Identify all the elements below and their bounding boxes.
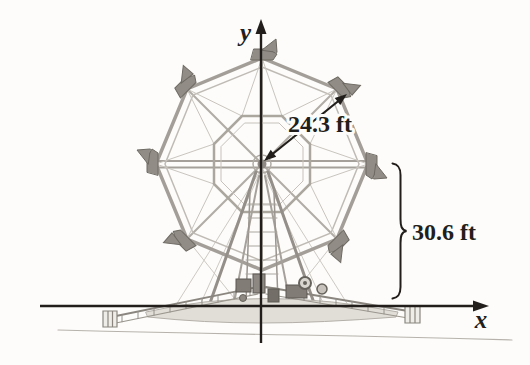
y-axis-arrowhead-icon bbox=[256, 19, 267, 34]
ferris-wheel-figure: y x 24.3 ft 30.6 ft bbox=[0, 0, 530, 365]
car-top bbox=[251, 39, 277, 60]
ferris-wheel-sketch bbox=[58, 39, 512, 340]
car-upper-left bbox=[166, 65, 199, 98]
x-axis-label: x bbox=[474, 306, 488, 333]
height-brace bbox=[393, 164, 407, 299]
car-right bbox=[366, 153, 387, 179]
car-lower-left bbox=[163, 227, 196, 260]
right-fence-box bbox=[405, 306, 420, 323]
height-dimension-label: 30.6 ft bbox=[412, 219, 476, 245]
radius-dimension-label: 24.3 ft bbox=[288, 111, 352, 137]
figure-canvas: y x 24.3 ft 30.6 ft bbox=[0, 0, 530, 365]
car-left bbox=[137, 149, 158, 175]
y-axis-label: y bbox=[237, 19, 252, 46]
left-fence-box bbox=[103, 311, 117, 327]
ground-line bbox=[58, 330, 512, 340]
car-lower-right bbox=[325, 230, 358, 263]
